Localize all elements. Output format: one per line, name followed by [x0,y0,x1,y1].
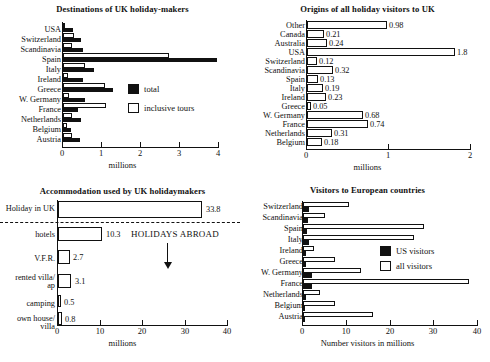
bar-total [63,118,81,123]
category-label: Netherlands [183,291,303,299]
category-label: Austria [183,313,303,321]
bar-all-visitors [303,224,424,229]
bar-visitors [307,120,368,128]
bar-visitors [307,93,326,101]
x-tick [140,142,141,147]
x-tick [142,320,143,325]
category-label: Belgium [185,139,305,147]
category-label: Switzerland [0,36,61,44]
legend-item-all-visitors: all visitors [380,261,432,271]
bar-visitors [307,48,455,56]
plot-area: Other Canada Australia USA Switzerland S… [245,0,490,181]
category-label: France [0,106,61,114]
x-axis-label: Number visitors in millions [245,338,490,348]
x-tick-label: 40 [467,326,487,336]
bar-value-label: 10.3 [106,230,121,239]
bar-value-label: 0.23 [328,93,343,102]
x-tick-label: 10 [90,326,110,336]
x-tick [477,320,478,325]
bar-value-label: 0.32 [335,66,350,75]
bar-value-label: 0.98 [389,21,404,30]
x-tick-label: 40 [217,326,237,336]
bar-value-label: 0.24 [329,39,344,48]
bar-value-label: 0.19 [325,84,340,93]
legend-label: total [144,84,159,94]
bar-us-visitors [303,207,309,212]
x-tick-label: 2 [460,150,480,160]
category-label: Scandinavia [0,46,61,54]
category-label: W. Germany [0,96,61,104]
legend-swatch-all-visitors-icon [380,261,391,271]
x-tick-label: 30 [423,326,443,336]
bar-total [63,78,83,83]
x-tick [101,142,102,147]
bar-visitors [307,111,363,119]
x-tick-label: 30 [175,326,195,336]
bar-visitors [307,129,332,137]
category-label: Belgium [0,126,61,134]
bar-value-label: 0.05 [313,102,328,111]
x-axis-label: millions [245,162,490,172]
bar-value-label: 0.13 [320,75,335,84]
bar-accommodation [58,295,61,307]
x-tick-label: 0 [52,148,72,158]
category-label: Spain [185,76,305,84]
category-label: Spain [0,56,61,64]
bar-us-visitors [303,273,312,278]
bar-total [63,108,78,113]
category-label: Italy [183,236,303,244]
bar-value-label: 0.8 [65,315,75,324]
bar-total [63,28,73,33]
x-tick-label: 0 [47,326,67,336]
bar-all-visitors [303,312,373,317]
x-tick-label: 1 [91,148,111,158]
x-tick-label: 0 [296,150,316,160]
category-label: Belgium [183,302,303,310]
category-label: Scandinavia [183,214,303,222]
x-tick-label: 10 [336,326,356,336]
x-tick-label: 0 [292,326,312,336]
x-tick-label: 20 [380,326,400,336]
bar-all-visitors [303,279,469,284]
category-label: Netherlands [0,116,61,124]
x-tick-label: 3 [169,148,189,158]
bar-value-label: 0.18 [324,138,339,147]
category-label: W. Germany [183,269,303,277]
category-label: V.F.R. [0,255,55,263]
bar-visitors [307,75,318,83]
bar-total [63,138,80,143]
legend-item-total: total [128,84,159,94]
chart-visitors-european-countries: Visitors to European countries Switzerla… [245,181,490,362]
legend-label: all visitors [396,261,432,271]
bar-value-label: 0.74 [370,120,385,129]
bar-visitors [307,30,324,38]
legend-item-us-visitors: US visitors [380,246,434,256]
bar-us-visitors [303,317,305,322]
bar-total [63,48,83,53]
bar-us-visitors [303,295,306,300]
bar-visitors [307,39,327,47]
bar-visitors [307,138,322,146]
x-tick [100,320,101,325]
bar-total [63,38,81,43]
x-tick [346,320,347,325]
bar-total [63,68,94,73]
bar-all-visitors [303,301,335,306]
bar-visitors [307,57,317,65]
x-tick-label: 4 [208,148,228,158]
bar-visitors [307,21,387,29]
bar-accommodation [58,201,202,218]
category-label: USA [0,26,61,34]
x-tick [470,144,471,149]
bar-value-label: 0.68 [365,111,380,120]
bar-value-label: 0.31 [334,129,349,138]
x-tick-label: 2 [130,148,150,158]
bar-us-visitors [303,251,306,256]
category-label: Australia [185,40,305,48]
x-axis-label: millions [0,338,245,348]
bar-us-visitors [303,240,309,245]
plot-area: Switzerland Scandinavia Spain Italy Irel… [245,181,490,362]
bar-value-label: 3.1 [75,277,85,286]
category-label: camping [0,300,55,308]
bar-total [63,88,113,93]
